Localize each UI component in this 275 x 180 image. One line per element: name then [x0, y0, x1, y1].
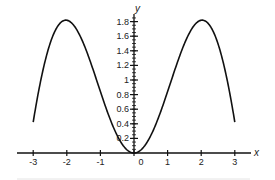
x-tick-label: 0: [138, 157, 143, 167]
y-tick-label: 0.8: [116, 90, 129, 100]
y-tick-label: 1.2: [116, 60, 129, 70]
x-tick-label: -1: [96, 157, 104, 167]
x-tick-label: -3: [29, 157, 37, 167]
y-axis-label: y: [134, 3, 141, 14]
y-tick-label: 0.4: [116, 119, 129, 129]
axes: x-3-2-10123y0.20.40.60.811.21.41.61.8: [17, 3, 260, 167]
y-tick-label: 1.8: [116, 17, 129, 27]
y-tick-label: 0.6: [116, 104, 129, 114]
x-tick-label: 2: [199, 157, 204, 167]
x-tick-label: 3: [232, 157, 237, 167]
function-plot: x-3-2-10123y0.20.40.60.811.21.41.61.8: [0, 0, 275, 180]
y-tick-label: 1.6: [116, 31, 129, 41]
x-tick-label: 1: [165, 157, 170, 167]
y-tick-label: 1.4: [116, 46, 129, 56]
x-axis-label: x: [253, 147, 260, 158]
y-tick-label: 1: [124, 75, 129, 85]
x-tick-label: -2: [63, 157, 71, 167]
